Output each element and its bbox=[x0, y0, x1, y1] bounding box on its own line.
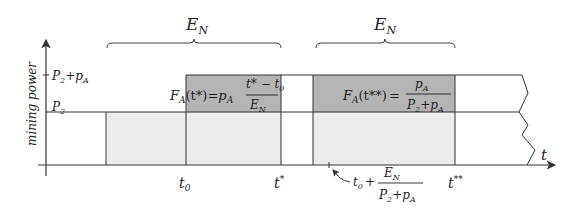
svg-text:EN: EN bbox=[383, 166, 401, 182]
x-tick-label-t0: t0 bbox=[179, 175, 191, 193]
y-tick-label-p2: P2 bbox=[51, 100, 65, 116]
x-axis-label: t bbox=[541, 146, 548, 164]
y-tick-label-p2pa: P2+pA bbox=[51, 69, 89, 85]
mining-power-diagram: EN EN mining power P2+pA P2 FA(t*)=pA t*… bbox=[0, 0, 577, 217]
break-zigzag-icon bbox=[519, 75, 535, 165]
brace-2 bbox=[316, 39, 455, 48]
brace-2-label: EN bbox=[373, 14, 396, 37]
annotation-formula: t0+ EN P2+pA bbox=[353, 166, 423, 204]
y-axis-label: mining power bbox=[25, 61, 39, 146]
x-tick-label-tstar: t* bbox=[274, 174, 285, 191]
svg-text:P2+pA: P2+pA bbox=[378, 188, 416, 204]
honest-block-region-1 bbox=[106, 112, 281, 165]
brace-1-label: EN bbox=[185, 14, 208, 37]
honest-block-region-2 bbox=[313, 112, 455, 165]
svg-text:t0+: t0+ bbox=[353, 175, 375, 191]
svg-text:t* − t0: t* − t0 bbox=[246, 77, 284, 93]
svg-text:FA(t*)=pA: FA(t*)=pA bbox=[169, 88, 234, 105]
svg-text:FA(t**)=: FA(t**)= bbox=[342, 88, 400, 105]
annotation-arrow-icon bbox=[333, 170, 350, 182]
brace-1 bbox=[107, 39, 281, 48]
x-tick-label-tstarstar: t** bbox=[448, 174, 463, 191]
